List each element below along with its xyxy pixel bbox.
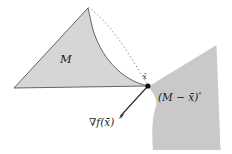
convex-set-M-region [14, 8, 148, 88]
diagram-canvas: M x̄ (M − x̄)° ∇f(x̄) [0, 0, 232, 154]
label-set-M: M [59, 52, 73, 66]
convex-set-M-group [14, 8, 148, 88]
geometric-diagram-figure: M x̄ (M − x̄)° ∇f(x̄) [0, 0, 232, 154]
gradient-arrow-shaft [121, 87, 148, 117]
label-polar-cone: (M − x̄)° [158, 91, 202, 103]
label-point-xbar: x̄ [143, 72, 148, 81]
gradient-arrow-head [118, 113, 125, 119]
boundary-point-group [145, 83, 150, 88]
label-polar-cone-degree: ° [198, 91, 201, 99]
label-polar-cone-base: (M − x̄) [158, 91, 198, 103]
label-gradient: ∇f(x̄) [89, 116, 114, 128]
gradient-arrow-group [118, 87, 148, 120]
boundary-point-xbar-dot [145, 83, 150, 88]
